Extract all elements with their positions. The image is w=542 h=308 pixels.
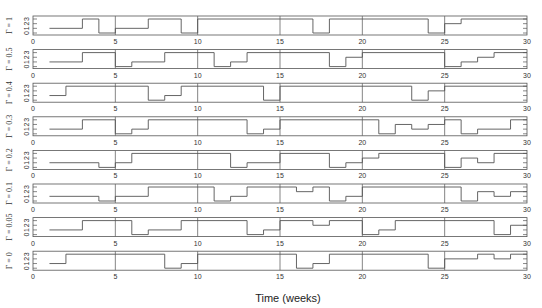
x-tick-label: 15 [276, 206, 284, 213]
x-tick-label: 20 [358, 105, 366, 112]
x-tick-label: 10 [194, 38, 202, 45]
x-tick-label: 15 [276, 38, 284, 45]
x-tick-label: 30 [523, 240, 531, 247]
y-tick-label: 1 [23, 127, 30, 131]
x-tick-label: 25 [441, 240, 449, 247]
step-series-line [49, 153, 527, 167]
y-tick-label: 2 [23, 257, 30, 261]
x-tick-label: 20 [358, 240, 366, 247]
x-tick-label: 10 [194, 273, 202, 280]
stacked-step-chart: 0123051015202530Γ = 10123051015202530Γ =… [0, 0, 542, 308]
x-tick-label: 0 [31, 38, 35, 45]
step-series-line [49, 221, 527, 235]
x-tick-label: 25 [441, 273, 449, 280]
panel: 0123051015202530Γ = 0.1 [5, 182, 531, 213]
x-tick-label: 30 [523, 273, 531, 280]
y-tick-label: 0 [23, 233, 30, 237]
x-tick-label: 15 [276, 240, 284, 247]
x-tick-label: 20 [358, 273, 366, 280]
panel-label: Γ = 0.1 [5, 182, 14, 205]
y-tick-label: 1 [23, 261, 30, 265]
x-tick-label: 0 [31, 72, 35, 79]
panel-label: Γ = 0.2 [5, 148, 14, 171]
y-tick-label: 0 [23, 266, 30, 270]
y-tick-label: 1 [23, 93, 30, 97]
x-tick-label: 10 [194, 139, 202, 146]
x-tick-label: 20 [358, 206, 366, 213]
panel: 0123051015202530Γ = 0 [5, 251, 531, 280]
panel-label: Γ = 0.05 [5, 214, 14, 241]
panel-label: Γ = 1 [5, 17, 14, 34]
x-tick-label: 10 [194, 105, 202, 112]
y-tick-label: 2 [23, 22, 30, 26]
panel-label: Γ = 0.4 [5, 81, 14, 104]
y-tick-label: 1 [23, 194, 30, 198]
x-tick-label: 30 [523, 172, 531, 179]
x-tick-label: 0 [31, 139, 35, 146]
x-tick-label: 25 [441, 139, 449, 146]
panel: 0123051015202530Γ = 1 [5, 16, 531, 45]
step-series-line [49, 187, 527, 201]
y-tick-label: 2 [23, 190, 30, 194]
x-tick-label: 0 [31, 240, 35, 247]
y-tick-label: 2 [23, 55, 30, 59]
y-tick-label: 3 [23, 252, 30, 256]
x-tick-label: 15 [276, 105, 284, 112]
y-tick-label: 0 [23, 199, 30, 203]
panel: 0123051015202530Γ = 0.3 [5, 115, 531, 146]
panel: 0123051015202530Γ = 0.5 [5, 48, 531, 79]
x-tick-label: 20 [358, 139, 366, 146]
y-tick-label: 1 [23, 26, 30, 30]
y-tick-label: 3 [23, 51, 30, 55]
x-tick-label: 10 [194, 206, 202, 213]
y-tick-label: 3 [23, 118, 30, 122]
x-tick-label: 0 [31, 206, 35, 213]
y-tick-label: 2 [23, 223, 30, 227]
y-tick-label: 0 [23, 65, 30, 69]
y-tick-label: 3 [23, 17, 30, 21]
y-tick-label: 3 [23, 84, 30, 88]
panel-label: Γ = 0 [5, 252, 14, 269]
x-tick-label: 25 [441, 38, 449, 45]
y-tick-label: 0 [23, 98, 30, 102]
step-series-line [49, 120, 527, 134]
y-tick-label: 3 [23, 151, 30, 155]
x-tick-label: 10 [194, 172, 202, 179]
x-tick-label: 5 [113, 72, 117, 79]
y-tick-label: 1 [23, 60, 30, 64]
panel: 0123051015202530Γ = 0.05 [5, 214, 531, 247]
x-tick-label: 25 [441, 105, 449, 112]
y-tick-label: 0 [23, 165, 30, 169]
step-series-line [49, 19, 527, 33]
step-series-line [49, 254, 527, 268]
x-tick-label: 30 [523, 139, 531, 146]
y-tick-label: 3 [23, 185, 30, 189]
x-tick-label: 0 [31, 105, 35, 112]
x-tick-label: 30 [523, 72, 531, 79]
step-series-line [49, 86, 527, 100]
y-tick-label: 0 [23, 31, 30, 35]
y-tick-label: 3 [23, 219, 30, 223]
x-tick-label: 25 [441, 206, 449, 213]
x-tick-label: 15 [276, 72, 284, 79]
y-tick-label: 2 [23, 156, 30, 160]
panel-label: Γ = 0.5 [5, 48, 14, 71]
x-tick-label: 25 [441, 172, 449, 179]
y-tick-label: 1 [23, 161, 30, 165]
x-tick-label: 30 [523, 206, 531, 213]
x-tick-label: 0 [31, 273, 35, 280]
x-axis-label: Time (weeks) [255, 292, 321, 304]
panel: 0123051015202530Γ = 0.2 [5, 148, 531, 179]
x-tick-label: 25 [441, 72, 449, 79]
x-tick-label: 15 [276, 172, 284, 179]
x-tick-label: 30 [523, 105, 531, 112]
x-tick-label: 5 [113, 105, 117, 112]
x-tick-label: 5 [113, 139, 117, 146]
x-tick-label: 5 [113, 206, 117, 213]
y-tick-label: 2 [23, 122, 30, 126]
panels-group: 0123051015202530Γ = 10123051015202530Γ =… [5, 16, 531, 280]
x-tick-label: 20 [358, 72, 366, 79]
y-tick-label: 0 [23, 132, 30, 136]
x-tick-label: 5 [113, 273, 117, 280]
x-tick-label: 15 [276, 139, 284, 146]
